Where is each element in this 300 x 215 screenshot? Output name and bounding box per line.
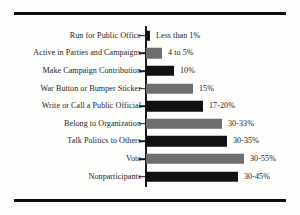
bar-row: Nonparticipants30-45% [0, 168, 300, 186]
bar-row: Run for Public OfficeLess than 1% [0, 27, 300, 45]
bar [146, 101, 203, 112]
value-label: 4 to 5% [168, 49, 194, 57]
bar [146, 136, 227, 147]
axis-tick [139, 123, 146, 125]
category-label: Active in Parties and Campaigns [33, 49, 141, 57]
bar-row: Talk Politics to Others30-35% [0, 133, 300, 151]
value-label: 30-45% [244, 173, 270, 181]
value-label: 10% [180, 67, 195, 75]
value-label: 30-35% [233, 137, 259, 145]
bar [146, 171, 238, 182]
bar [146, 154, 244, 165]
category-label: Belong to Organization [64, 120, 141, 128]
axis-tick [139, 53, 146, 55]
axis-tick [139, 176, 146, 178]
axis-tick [139, 88, 146, 90]
category-label: Talk Politics to Others [67, 137, 141, 145]
bottom-rule [14, 199, 286, 202]
bar-row: Active in Parties and Campaigns4 to 5% [0, 45, 300, 63]
value-label: 30-55% [250, 155, 276, 163]
bar-row: War Button or Bumper Sticker15% [0, 80, 300, 98]
category-label: Run for Public Office [70, 32, 141, 40]
axis-tick [139, 158, 146, 160]
bar-chart-figure: Run for Public OfficeLess than 1%Active … [0, 0, 300, 215]
category-label: Make Campaign Contribution [43, 67, 141, 75]
bar [146, 48, 162, 59]
category-label: War Button or Bumper Sticker [40, 85, 141, 93]
bar [146, 119, 222, 130]
bar-row: Vote30-55% [0, 150, 300, 168]
top-rule [14, 12, 286, 15]
bar [146, 31, 150, 42]
axis-tick [139, 35, 146, 37]
axis-tick [139, 70, 146, 72]
value-label: 15% [199, 85, 214, 93]
axis-tick [139, 105, 146, 107]
category-label: Nonparticipants [89, 173, 141, 181]
bar-row: Write or Call a Public Official17-20% [0, 97, 300, 115]
plot-area: Run for Public OfficeLess than 1%Active … [0, 26, 300, 191]
value-label: 17-20% [209, 102, 235, 110]
bar [146, 83, 193, 94]
bar-row: Make Campaign Contribution10% [0, 62, 300, 80]
axis-tick [139, 141, 146, 143]
value-label: 30-33% [228, 120, 254, 128]
bar [146, 66, 174, 77]
bar-row: Belong to Organization30-33% [0, 115, 300, 133]
value-label: Less than 1% [156, 32, 200, 40]
category-label: Write or Call a Public Official [42, 102, 141, 110]
